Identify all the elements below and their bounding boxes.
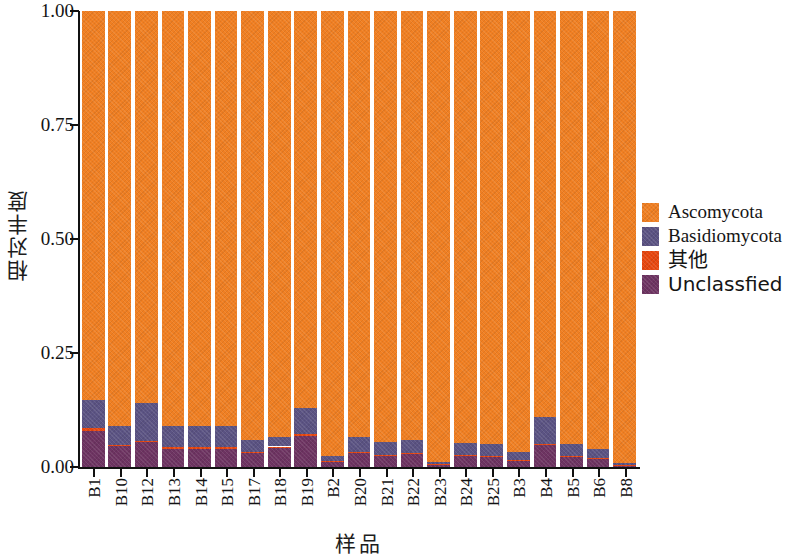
bar-column[interactable] <box>454 11 477 467</box>
bar-segment[interactable] <box>401 11 424 440</box>
bar-segment[interactable] <box>135 11 158 403</box>
bar-segment[interactable] <box>268 437 291 446</box>
bar-column[interactable] <box>348 11 371 467</box>
bar-segment[interactable] <box>507 452 530 460</box>
bar-segment[interactable] <box>268 11 291 437</box>
bar-segment[interactable] <box>374 442 397 455</box>
bar-column[interactable] <box>534 11 557 467</box>
bar-segment[interactable] <box>427 464 450 467</box>
bar-segment[interactable] <box>454 455 477 456</box>
bar-segment[interactable] <box>401 440 424 454</box>
bar-segment[interactable] <box>534 444 557 445</box>
bar-segment[interactable] <box>188 426 211 447</box>
bar-column[interactable] <box>560 11 583 467</box>
bar-column[interactable] <box>587 11 610 467</box>
bar-segment[interactable] <box>241 440 264 453</box>
bar-segment[interactable] <box>560 11 583 444</box>
bar-segment[interactable] <box>613 465 636 467</box>
bar-segment[interactable] <box>321 462 344 467</box>
bar-segment[interactable] <box>587 459 610 467</box>
bar-segment[interactable] <box>480 444 503 456</box>
bar-segment[interactable] <box>82 11 105 400</box>
bar-segment[interactable] <box>162 449 185 467</box>
legend-item[interactable]: Ascomycota <box>642 200 796 224</box>
bar-segment[interactable] <box>348 452 371 453</box>
bar-segment[interactable] <box>188 11 211 426</box>
bar-segment[interactable] <box>454 443 477 454</box>
legend-item[interactable]: Basidiomycota <box>642 224 796 248</box>
bar-segment[interactable] <box>560 444 583 456</box>
bar-column[interactable] <box>241 11 264 467</box>
bar-segment[interactable] <box>374 11 397 442</box>
bar-segment[interactable] <box>82 400 105 428</box>
bar-segment[interactable] <box>108 446 131 467</box>
bar-segment[interactable] <box>215 426 238 447</box>
legend-item[interactable]: 其他 <box>642 248 796 272</box>
bar-segment[interactable] <box>188 449 211 467</box>
bar-segment[interactable] <box>587 449 610 458</box>
bar-segment[interactable] <box>135 403 158 440</box>
bar-segment[interactable] <box>560 457 583 467</box>
bar-column[interactable] <box>374 11 397 467</box>
bar-segment[interactable] <box>215 449 238 467</box>
bar-segment[interactable] <box>108 11 131 426</box>
bar-segment[interactable] <box>215 447 238 448</box>
bar-segment[interactable] <box>321 11 344 456</box>
bar-segment[interactable] <box>241 11 264 440</box>
bar-segment[interactable] <box>215 11 238 426</box>
bar-segment[interactable] <box>135 442 158 467</box>
bar-column[interactable] <box>215 11 238 467</box>
bar-segment[interactable] <box>162 426 185 447</box>
bar-segment[interactable] <box>188 447 211 448</box>
bar-segment[interactable] <box>241 453 264 467</box>
bar-column[interactable] <box>613 11 636 467</box>
bar-column[interactable] <box>82 11 105 467</box>
bar-segment[interactable] <box>82 431 105 467</box>
bar-segment[interactable] <box>587 11 610 449</box>
bar-column[interactable] <box>480 11 503 467</box>
bar-segment[interactable] <box>507 11 530 452</box>
bar-column[interactable] <box>507 11 530 467</box>
bar-segment[interactable] <box>587 458 610 459</box>
bar-column[interactable] <box>321 11 344 467</box>
legend-item[interactable]: Unclassfied <box>642 272 796 296</box>
bar-segment[interactable] <box>560 456 583 457</box>
bar-segment[interactable] <box>454 456 477 467</box>
bar-column[interactable] <box>188 11 211 467</box>
bar-segment[interactable] <box>507 461 530 467</box>
bar-segment[interactable] <box>480 457 503 467</box>
bar-segment[interactable] <box>294 434 317 436</box>
bar-segment[interactable] <box>294 436 317 467</box>
bar-segment[interactable] <box>241 452 264 453</box>
bar-segment[interactable] <box>268 448 291 467</box>
bar-segment[interactable] <box>268 447 291 448</box>
bar-segment[interactable] <box>82 428 105 431</box>
bar-segment[interactable] <box>162 11 185 426</box>
bar-column[interactable] <box>401 11 424 467</box>
bar-segment[interactable] <box>321 456 344 461</box>
bar-segment[interactable] <box>135 441 158 442</box>
bar-segment[interactable] <box>348 453 371 467</box>
bar-segment[interactable] <box>374 456 397 467</box>
bar-segment[interactable] <box>480 11 503 444</box>
bar-segment[interactable] <box>348 437 371 452</box>
bar-segment[interactable] <box>162 447 185 448</box>
bar-column[interactable] <box>268 11 291 467</box>
bar-segment[interactable] <box>427 11 450 462</box>
bar-column[interactable] <box>108 11 131 467</box>
bar-segment[interactable] <box>613 463 636 464</box>
bar-segment[interactable] <box>294 11 317 408</box>
bar-column[interactable] <box>162 11 185 467</box>
bar-segment[interactable] <box>613 11 636 463</box>
bar-segment[interactable] <box>108 445 131 446</box>
bar-segment[interactable] <box>401 453 424 454</box>
bar-column[interactable] <box>135 11 158 467</box>
bar-segment[interactable] <box>108 426 131 445</box>
bar-segment[interactable] <box>480 456 503 457</box>
bar-segment[interactable] <box>534 417 557 444</box>
bar-segment[interactable] <box>348 11 371 437</box>
bar-segment[interactable] <box>401 454 424 467</box>
bar-column[interactable] <box>294 11 317 467</box>
bar-column[interactable] <box>427 11 450 467</box>
bar-segment[interactable] <box>534 445 557 467</box>
